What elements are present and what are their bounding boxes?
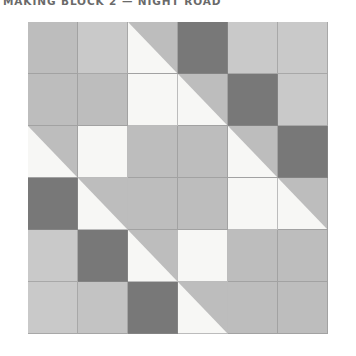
patch-r3c1-triangle bbox=[28, 126, 77, 177]
patch-r3c1 bbox=[28, 126, 78, 178]
patch-r1c1 bbox=[28, 22, 78, 74]
quilt-block-diagram: MAKING BLOCK 2 — NIGHT ROAD bbox=[0, 0, 356, 356]
patch-r4c6 bbox=[278, 178, 328, 230]
patch-r3c3 bbox=[128, 126, 178, 178]
patch-r1c3-triangle bbox=[128, 22, 177, 73]
patch-r6c3 bbox=[128, 282, 178, 334]
patch-r2c1 bbox=[28, 74, 78, 126]
patch-r6c2 bbox=[78, 282, 128, 334]
patch-r6c1 bbox=[28, 282, 78, 334]
patch-r3c5 bbox=[228, 126, 278, 178]
patch-r2c2 bbox=[78, 74, 128, 126]
patch-r3c4 bbox=[178, 126, 228, 178]
patch-r3c5-triangle bbox=[228, 126, 277, 177]
patch-r6c5 bbox=[228, 282, 278, 334]
patch-r4c4 bbox=[178, 178, 228, 230]
patch-r4c6-triangle bbox=[278, 178, 327, 229]
patch-r1c5 bbox=[228, 22, 278, 74]
patch-r6c6 bbox=[278, 282, 328, 334]
page-title: MAKING BLOCK 2 — NIGHT ROAD bbox=[0, 0, 356, 9]
patch-r5c3 bbox=[128, 230, 178, 282]
quilt-block-grid bbox=[28, 22, 328, 334]
patch-r2c6 bbox=[278, 74, 328, 126]
patch-r2c5 bbox=[228, 74, 278, 126]
patch-r4c2 bbox=[78, 178, 128, 230]
patch-r2c4 bbox=[178, 74, 228, 126]
patch-r5c5 bbox=[228, 230, 278, 282]
patch-r5c2 bbox=[78, 230, 128, 282]
patch-r2c3 bbox=[128, 74, 178, 126]
patch-r6c4 bbox=[178, 282, 228, 334]
page-title-text: MAKING BLOCK 2 — NIGHT ROAD bbox=[0, 0, 221, 9]
patch-r1c3 bbox=[128, 22, 178, 74]
patch-r4c3 bbox=[128, 178, 178, 230]
patch-r3c6 bbox=[278, 126, 328, 178]
patch-r5c6 bbox=[278, 230, 328, 282]
patch-r4c2-triangle bbox=[78, 178, 127, 229]
patch-r6c4-triangle bbox=[178, 282, 227, 333]
patch-r4c5 bbox=[228, 178, 278, 230]
patch-r5c1 bbox=[28, 230, 78, 282]
patch-r4c1 bbox=[28, 178, 78, 230]
patch-r2c4-triangle bbox=[178, 74, 227, 125]
patch-r1c6 bbox=[278, 22, 328, 74]
patch-r1c2 bbox=[78, 22, 128, 74]
patch-r3c2 bbox=[78, 126, 128, 178]
patch-r5c4 bbox=[178, 230, 228, 282]
patch-r1c4 bbox=[178, 22, 228, 74]
patch-r5c3-triangle bbox=[128, 230, 177, 281]
